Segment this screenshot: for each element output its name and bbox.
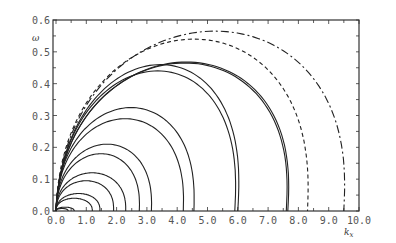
x-tick-label: 10.0	[347, 215, 371, 226]
dispersion-chart: 0.01.02.03.04.05.06.07.08.09.010.0 0.00.…	[0, 0, 396, 243]
x-axis-label: kx	[344, 227, 353, 239]
x-tick-label: 8.0	[289, 215, 307, 226]
y-tick-label: 0.4	[32, 79, 50, 90]
x-tick-label: 5.0	[198, 215, 216, 226]
x-tick-label: 4.0	[168, 215, 186, 226]
curve-dashed	[56, 39, 308, 211]
y-axis-ticks: 0.00.10.20.30.40.50.6	[32, 15, 359, 217]
plot-frame	[53, 20, 359, 211]
x-tick-label: 7.0	[259, 215, 277, 226]
x-tick-label: 1.0	[77, 215, 95, 226]
y-tick-label: 0.6	[32, 15, 50, 26]
curve-7a	[56, 63, 287, 211]
curve-5a	[56, 119, 184, 211]
x-tick-label: 2.0	[108, 215, 126, 226]
y-tick-label: 0.5	[32, 47, 50, 58]
curve-6b	[56, 65, 239, 211]
y-tick-label: 0.0	[32, 206, 50, 217]
curve-7b	[56, 62, 289, 211]
y-tick-label: 0.1	[32, 174, 50, 185]
curve-6a	[56, 71, 236, 211]
curve-2a	[56, 198, 92, 211]
x-tick-label: 3.0	[138, 215, 156, 226]
y-axis-label: ω	[32, 33, 40, 43]
x-tick-label: 6.0	[229, 215, 247, 226]
x-axis-ticks: 0.01.02.03.04.05.06.07.08.09.010.0	[47, 20, 371, 226]
x-tick-label: 9.0	[320, 215, 338, 226]
curve-group	[56, 31, 345, 211]
y-tick-label: 0.2	[32, 142, 50, 153]
y-tick-label: 0.3	[32, 111, 50, 122]
x-axis-label-sub: x	[349, 231, 353, 239]
